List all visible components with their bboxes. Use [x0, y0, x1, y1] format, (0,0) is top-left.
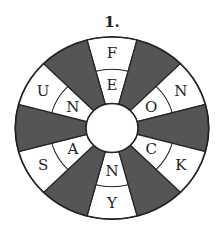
- outer-letter-lower-right: K: [175, 156, 187, 174]
- inner-letter-lower-left: A: [66, 140, 78, 158]
- outer-letter-top: F: [107, 44, 117, 62]
- center-circle: [86, 104, 138, 153]
- outer-letter-bottom: Y: [106, 194, 118, 212]
- outer-letter-upper-right: N: [174, 82, 187, 100]
- inner-letter-bottom: N: [105, 162, 118, 180]
- inner-letter-top: E: [107, 76, 118, 94]
- letter-wheel: FENOKCYNSAUN: [0, 0, 222, 236]
- inner-letter-upper-left: N: [66, 98, 79, 116]
- inner-letter-upper-right: O: [145, 98, 157, 116]
- outer-letter-lower-left: S: [38, 156, 48, 174]
- inner-letter-lower-right: C: [145, 140, 156, 158]
- outer-letter-upper-left: U: [37, 82, 50, 100]
